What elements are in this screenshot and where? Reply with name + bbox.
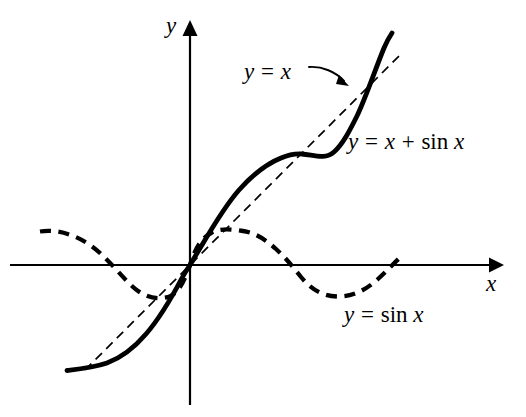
label-sin-part-sin: sin: [381, 302, 408, 327]
label-sin-part-y: y: [344, 302, 354, 327]
curve-y-equals-sin-x: [40, 229, 400, 298]
label-sum-part-x2: x: [454, 129, 464, 154]
label-y-equals-x-part-y: y: [244, 59, 254, 84]
label-sum-part-plus: +: [401, 129, 416, 154]
label-sum-part-y: y: [348, 129, 358, 154]
graph-figure: y x y = x y = x + sin x y = sin x: [0, 0, 526, 417]
label-sum-part-sin: sin: [421, 129, 448, 154]
label-y-equals-x-plus-sin-x: y = x + sin x: [348, 130, 464, 153]
label-y-equals-x-part-eq: =: [260, 59, 275, 84]
label-y-equals-x-part-x: x: [281, 59, 291, 84]
y-axis-label: y: [166, 14, 176, 37]
x-axis-label: x: [486, 272, 496, 295]
leader-arrow-y-equals-x: [309, 67, 349, 86]
y-axis-arrowhead: [183, 20, 198, 36]
label-sin-part-x: x: [413, 302, 423, 327]
label-sum-part-eq: =: [364, 129, 379, 154]
label-y-equals-x: y = x: [244, 60, 291, 83]
label-sin-part-eq: =: [360, 302, 375, 327]
label-sum-part-x: x: [385, 129, 395, 154]
label-y-equals-sin-x: y = sin x: [344, 303, 424, 326]
